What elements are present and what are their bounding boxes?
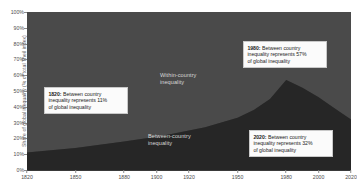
- x-tick: 2020: [345, 170, 357, 180]
- x-tick-mark: [156, 170, 157, 173]
- x-tick-label: 1920: [183, 174, 195, 180]
- between-country-label: Between-country inequality: [148, 133, 191, 147]
- y-tick-label: 90%: [14, 25, 24, 31]
- x-tick-label: 1850: [70, 174, 82, 180]
- x-tick-mark: [286, 170, 287, 173]
- annotation-year: 1980:: [247, 45, 260, 51]
- x-tick-label: 1820: [21, 174, 33, 180]
- x-tick: 1820: [21, 170, 33, 180]
- x-tick: 2000: [313, 170, 325, 180]
- y-tick-label: 80%: [14, 41, 24, 47]
- x-tick-mark: [26, 170, 27, 173]
- within-country-label: Within-country inequality: [160, 72, 196, 86]
- x-tick-mark: [237, 170, 238, 173]
- x-tick-label: 2000: [313, 174, 325, 180]
- x-axis-ticks: 182018501880190019201950198020002020: [27, 170, 351, 192]
- x-tick-mark: [350, 170, 351, 173]
- y-tick-label: 20%: [14, 135, 24, 141]
- x-tick-mark: [124, 170, 125, 173]
- annotation-year: 1820:: [48, 91, 61, 97]
- x-tick: 1950: [232, 170, 244, 180]
- y-tick-label: 70%: [14, 56, 24, 62]
- x-tick-label: 1900: [151, 174, 163, 180]
- x-tick: 1880: [118, 170, 130, 180]
- y-axis-ticks: 0%10%20%30%40%50%60%70%80%90%100%: [6, 0, 26, 192]
- x-tick: 1900: [151, 170, 163, 180]
- annotation-callout-1820: 1820: Between country inequality represe…: [44, 87, 128, 114]
- x-tick-label: 1980: [280, 174, 292, 180]
- y-tick-label: 100%: [11, 9, 24, 15]
- y-tick-label: 40%: [14, 104, 24, 110]
- y-tick-label: 10%: [14, 151, 24, 157]
- x-tick-mark: [75, 170, 76, 173]
- x-tick-label: 1880: [118, 174, 130, 180]
- y-tick-label: 60%: [14, 72, 24, 78]
- x-tick-mark: [188, 170, 189, 173]
- annotation-year: 2020:: [253, 134, 266, 140]
- annotation-callout-2020: 2020: Between country inequality represe…: [249, 130, 333, 157]
- x-tick: 1920: [183, 170, 195, 180]
- x-tick-label: 2020: [345, 174, 357, 180]
- y-tick-label: 50%: [14, 88, 24, 94]
- x-tick: 1850: [70, 170, 82, 180]
- x-tick-mark: [318, 170, 319, 173]
- annotation-callout-1980: 1980: Between country inequality represe…: [243, 41, 327, 68]
- y-tick-label: 30%: [14, 120, 24, 126]
- x-tick-label: 1950: [232, 174, 244, 180]
- x-tick: 1980: [280, 170, 292, 180]
